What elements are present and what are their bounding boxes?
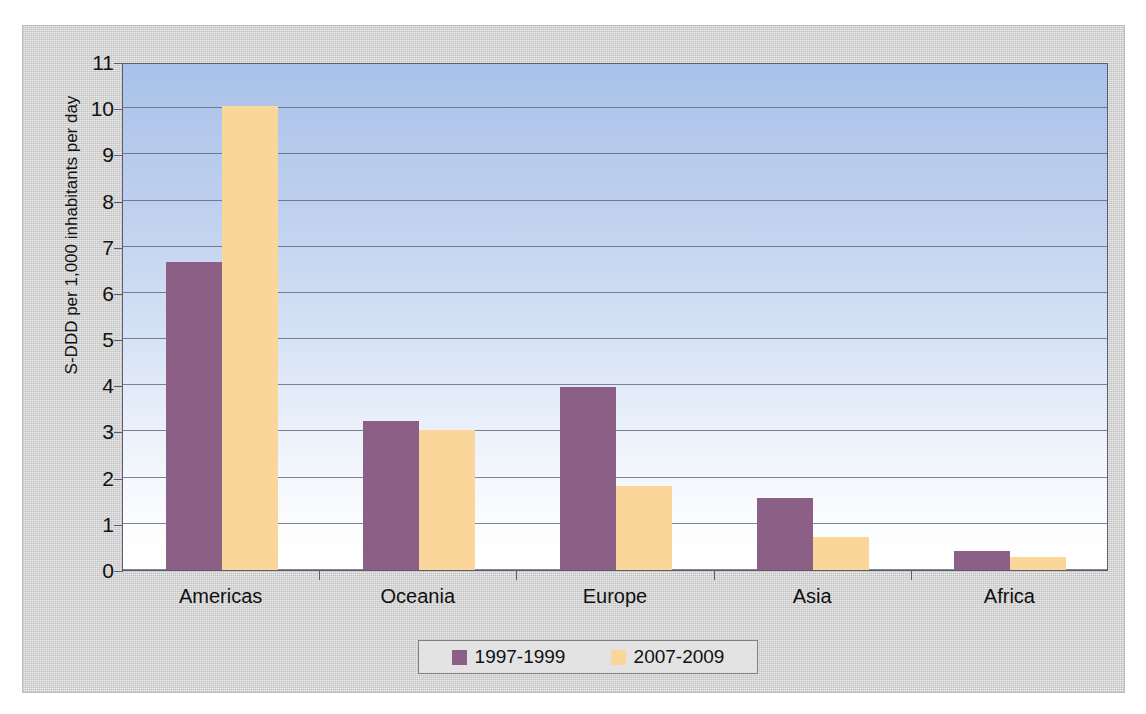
bar-africa-1997-1999 [954, 551, 1010, 570]
x-axis-category-label: Americas [179, 585, 262, 608]
y-axis-tick-label: 9 [74, 143, 114, 167]
plot-area [122, 63, 1108, 571]
x-axis-category-label: Asia [793, 585, 832, 608]
y-axis-tick-label: 11 [74, 51, 114, 75]
x-axis-tick-mark [319, 571, 320, 580]
legend-label: 1997-1999 [475, 646, 566, 668]
y-axis-tick-label: 7 [74, 236, 114, 260]
legend-label: 2007-2009 [634, 646, 725, 668]
legend-entry: 2007-2009 [611, 646, 725, 668]
bar-americas-2007-2009 [222, 106, 278, 570]
legend-entry: 1997-1999 [452, 646, 566, 668]
scanned-page: S-DDD per 1,000 inhabitants per day 1110… [0, 0, 1146, 714]
y-axis-tick-label: 1 [74, 513, 114, 537]
chart-legend: 1997-19992007-2009 [418, 640, 758, 674]
x-axis-category-label: Oceania [381, 585, 456, 608]
y-axis-tick-label: 0 [74, 559, 114, 583]
y-axis-tick-label: 2 [74, 467, 114, 491]
bar-americas-1997-1999 [166, 262, 222, 570]
x-axis-category-label: Europe [583, 585, 648, 608]
bar-asia-1997-1999 [757, 498, 813, 570]
bar-oceania-1997-1999 [363, 421, 419, 570]
x-axis-tick-mark [714, 571, 715, 580]
bar-europe-2007-2009 [616, 486, 672, 570]
x-axis-tick-mark [911, 571, 912, 580]
y-axis-tick-label: 6 [74, 282, 114, 306]
x-axis-tick-mark [516, 571, 517, 580]
legend-swatch-icon [611, 650, 626, 665]
bar-oceania-2007-2009 [419, 430, 475, 570]
y-axis-tick-label: 4 [74, 374, 114, 398]
bar-europe-1997-1999 [560, 387, 616, 570]
y-axis-tick-labels: 11109876543210 [62, 63, 114, 571]
bar-africa-2007-2009 [1010, 557, 1066, 570]
y-axis-tick-label: 8 [74, 190, 114, 214]
y-axis-tick-label: 5 [74, 328, 114, 352]
y-axis-tick-label: 10 [74, 97, 114, 121]
x-axis-category-label: Africa [984, 585, 1035, 608]
bar-asia-2007-2009 [813, 537, 869, 570]
y-axis-tick-label: 3 [74, 420, 114, 444]
chart-paper-panel: S-DDD per 1,000 inhabitants per day 1110… [22, 25, 1125, 693]
y-axis-tick-mark [114, 571, 123, 572]
legend-swatch-icon [452, 650, 467, 665]
